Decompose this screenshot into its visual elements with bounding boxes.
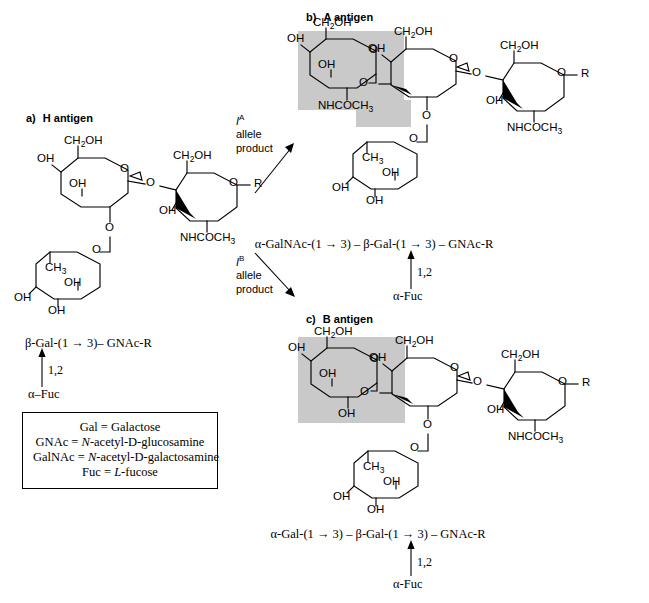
atom-ch2oh-gnac-c: CH2OH [501, 349, 540, 363]
panel-b-branch-residue: α-Fuc [393, 290, 422, 303]
atom-oh-gal-c-c4: OH [288, 342, 305, 354]
atom-oh-fuc-c-c3: OH [367, 504, 384, 516]
atom-o-ring-gal-b: O [449, 53, 458, 65]
atom-ch2oh-gal-a: CH2OH [64, 135, 103, 149]
atom-o-ring-fuc-b: O [409, 133, 418, 145]
atom-oh-galnac-b-c4: OH [287, 33, 304, 45]
atom-o-glycosidic-b2: O [472, 67, 481, 79]
atom-ch2oh-gnac-b: CH2OH [500, 40, 539, 54]
atom-oh-fuc-b-c3: OH [366, 195, 383, 207]
atom-oh-fuc-b-inner: OH [382, 167, 399, 179]
structure-drawing-layer [0, 0, 649, 603]
allele-ib-line2: allele [236, 269, 262, 281]
allele-ia-line2: allele [236, 128, 262, 140]
atom-o-ring-fuc-c: O [410, 442, 419, 454]
panel-a-bonds [29, 146, 250, 307]
atom-o-ring-fuc-a: O [92, 244, 101, 256]
atom-oh-fuc-a-c3: OH [48, 305, 65, 317]
atom-ch2oh-gal2-c: CH2OH [395, 335, 434, 349]
atom-ch2oh-gal-c: CH2OH [314, 326, 353, 340]
atom-oh-gnac-c: OH [487, 404, 504, 416]
atom-r-gnac-c: R [582, 377, 590, 389]
atom-ch3-fuc-b: CH3 [362, 152, 383, 166]
atom-o-ring-gnac-c: O [558, 376, 567, 388]
panel-a-sequence: β-Gal-(1 → 3)– GNAc-R [25, 337, 152, 350]
atom-ch3-fuc-c: CH3 [363, 461, 384, 475]
allele-ia-line3: product [236, 142, 273, 154]
allele-gene-ia: IA [236, 115, 244, 127]
atom-oh-fuc-a-c4: OH [14, 292, 31, 304]
atom-r-gnac-b: R [581, 68, 589, 80]
atom-oh-fuc-b-c4: OH [332, 182, 349, 194]
atom-o-glycosidic-fuc-a: O [105, 222, 114, 234]
atom-o-glycosidic-fuc-c: O [423, 419, 432, 431]
panel-a-heading: a)H antigen [26, 112, 93, 124]
panel-c-title: B antigen [323, 313, 373, 325]
atom-ch2oh-galnac-b: CH2OH [313, 17, 352, 31]
atom-o-glycosidic-c1: O [360, 386, 369, 398]
legend-box: Gal = Galactose GNAc = N-acetyl-D-glucos… [22, 412, 218, 489]
panel-a-branch-label: 1,2 [48, 363, 63, 378]
panel-c-branch-residue: α-Fuc [393, 578, 422, 591]
panel-a-branch-residue: α–Fuc [28, 388, 60, 401]
panel-c-branch-label: 1,2 [417, 555, 432, 570]
atom-nhcoch3-gnac-c: NHCOCH3 [508, 431, 563, 445]
allele-label-ib: IB allele product [236, 252, 273, 296]
allele-label-ia: IA allele product [236, 111, 273, 155]
legend-row-gal: Gal = Galactose [33, 420, 207, 435]
atom-oh-gal2-c-c4: OH [369, 352, 386, 364]
legend-row-fuc: Fuc = L-fucose [33, 465, 207, 480]
atom-oh-fuc-a-inner: OH [64, 277, 81, 289]
atom-oh-gnac-b: OH [486, 95, 503, 107]
allele-gene-ib: IB [236, 256, 244, 268]
atom-nhcoch3-galnac-b: NHCOCH3 [318, 100, 373, 114]
atom-oh-gnac-a: OH [159, 205, 176, 217]
panel-b-sequence: α-GalNAc-(1 → 3) – β-Gal-(1 → 3) – GNAc-… [255, 238, 494, 251]
atom-ch2oh-gal-b: CH2OH [394, 26, 433, 40]
atom-o-glycosidic-a: O [146, 177, 155, 189]
atom-oh-gal-a-c3: OH [69, 178, 86, 190]
panel-b-branch-label: 1,2 [417, 265, 432, 280]
panel-c-letter: c) [306, 313, 316, 325]
atom-r-gnac-a: R [254, 178, 262, 190]
atom-oh-galnac-b-c3: OH [318, 59, 335, 71]
atom-ch3-fuc-a: CH3 [45, 262, 66, 276]
panel-c-sequence: α-Gal-(1 → 3) – β-Gal-(1 → 3) – GNAc-R [271, 528, 486, 541]
atom-oh-fuc-c-c4: OH [333, 491, 350, 503]
panel-c-heading: c)B antigen [306, 313, 373, 325]
panel-b-branch-arrow [407, 250, 414, 289]
atom-oh-gal-b-c4: OH [368, 43, 385, 55]
atom-oh-gal-c-c1: OH [338, 408, 355, 420]
atom-nhcoch3-gnac-b: NHCOCH3 [507, 122, 562, 136]
allele-ib-line3: product [236, 283, 273, 295]
panel-a-title: H antigen [43, 112, 93, 124]
panel-a-letter: a) [26, 112, 36, 124]
atom-ch2oh-gnac-a: CH2OH [173, 150, 212, 164]
legend-row-galnac: GalNAc = N-acetyl-D-galactosamine [33, 450, 207, 465]
panel-c-branch-arrow [407, 540, 414, 576]
atom-o-glycosidic-c2: O [473, 376, 482, 388]
atom-oh-fuc-c-inner: OH [383, 476, 400, 488]
atom-nhcoch3-gnac-a: NHCOCH3 [180, 232, 235, 246]
panel-a-branch-arrow [38, 348, 45, 387]
atom-oh-gal-c-c3: OH [319, 368, 336, 380]
atom-o-ring-gal-a: O [120, 163, 129, 175]
legend-row-gnac: GNAc = N-acetyl-D-glucosamine [33, 435, 207, 450]
atom-o-ring-gnac-b: O [557, 67, 566, 79]
atom-o-ring-gal2-c: O [450, 362, 459, 374]
atom-o-glycosidic-fuc-b: O [422, 110, 431, 122]
atom-o-ring-gnac-a: O [229, 177, 238, 189]
atom-oh-gal-a-c4: OH [37, 153, 54, 165]
atom-o-glycosidic-b1: O [359, 77, 368, 89]
